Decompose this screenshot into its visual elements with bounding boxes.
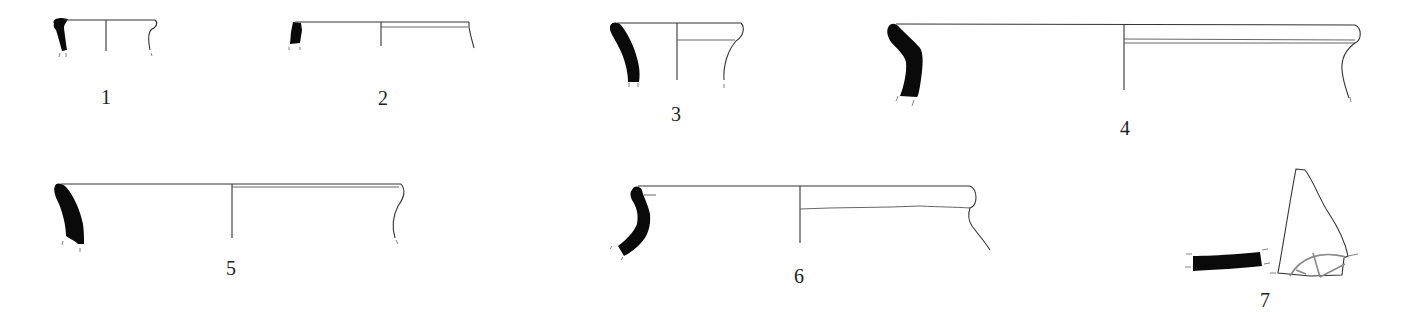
figure-number-2: 2 — [378, 88, 388, 108]
figure-number-5: 5 — [226, 258, 236, 278]
figure-number-3: 3 — [671, 104, 681, 124]
pottery-figure: 1 2 3 4 5 6 7 — [0, 0, 1401, 320]
section-profile-5 — [54, 183, 84, 244]
section-profile-4 — [887, 24, 922, 97]
vessel-profile-6 — [610, 186, 990, 260]
vessel-profile-4 — [887, 24, 1360, 106]
figure-number-6: 6 — [794, 266, 804, 286]
profile-drawings — [0, 0, 1401, 320]
section-profile-6 — [618, 187, 650, 256]
section-profile-1 — [53, 18, 68, 51]
vessel-fragment-7 — [1185, 169, 1358, 277]
figure-number-7: 7 — [1260, 290, 1270, 310]
vessel-profile-3 — [610, 23, 743, 89]
vessel-profile-2 — [289, 22, 474, 50]
section-profile-7 — [1193, 252, 1262, 271]
section-profile-2 — [290, 22, 302, 44]
section-profile-3 — [610, 23, 640, 83]
vessel-profile-5 — [54, 183, 404, 252]
sherd-outline — [1278, 169, 1348, 276]
figure-number-1: 1 — [101, 87, 111, 107]
vessel-profile-1 — [53, 18, 156, 57]
figure-number-4: 4 — [1120, 118, 1130, 138]
